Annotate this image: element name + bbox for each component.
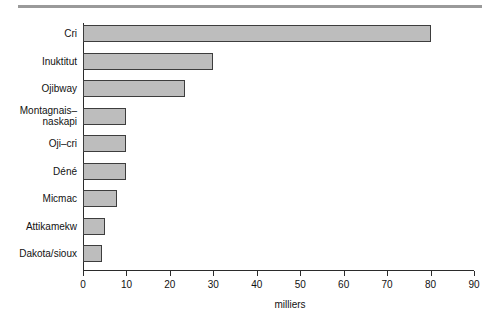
bar-chart: CriInuktitutOjibwayMontagnais– naskapiOj… bbox=[0, 0, 500, 324]
bar-rect bbox=[83, 135, 126, 152]
x-tick-label: 0 bbox=[68, 279, 98, 290]
x-tick-label: 80 bbox=[416, 279, 446, 290]
x-tick bbox=[387, 271, 388, 276]
category-label: Inuktitut bbox=[0, 56, 77, 67]
x-tick bbox=[213, 271, 214, 276]
bar-rect bbox=[83, 218, 105, 235]
x-tick bbox=[474, 271, 475, 276]
x-tick-label: 20 bbox=[155, 279, 185, 290]
x-tick-label: 10 bbox=[111, 279, 141, 290]
x-tick bbox=[344, 271, 345, 276]
x-axis-title-text: milliers bbox=[274, 299, 305, 310]
x-tick bbox=[83, 271, 84, 276]
x-tick-label: 60 bbox=[329, 279, 359, 290]
x-axis-line bbox=[83, 270, 474, 271]
x-tick bbox=[431, 271, 432, 276]
x-tick bbox=[300, 271, 301, 276]
category-label: Oji–cri bbox=[0, 138, 77, 149]
category-label: Dakota/sioux bbox=[0, 248, 77, 259]
category-label: Attikamekw bbox=[0, 221, 77, 232]
x-tick bbox=[257, 271, 258, 276]
x-tick bbox=[170, 271, 171, 276]
bar-rect bbox=[83, 163, 126, 180]
bar-rect bbox=[83, 80, 185, 97]
bar-rect bbox=[83, 190, 117, 207]
x-axis-title: milliers bbox=[0, 299, 500, 310]
category-label: Montagnais– naskapi bbox=[0, 105, 77, 127]
bar-rect bbox=[83, 25, 431, 42]
category-label: Ojibway bbox=[0, 83, 77, 94]
bar-rect bbox=[83, 245, 102, 262]
x-tick-label: 40 bbox=[242, 279, 272, 290]
x-tick-label: 90 bbox=[459, 279, 489, 290]
category-label: Cri bbox=[0, 28, 77, 39]
x-tick-label: 50 bbox=[285, 279, 315, 290]
x-tick-label: 70 bbox=[372, 279, 402, 290]
bar-rect bbox=[83, 53, 213, 70]
x-tick-label: 30 bbox=[198, 279, 228, 290]
category-label: Déné bbox=[0, 166, 77, 177]
x-tick bbox=[126, 271, 127, 276]
bar-rect bbox=[83, 108, 126, 125]
category-label: Micmac bbox=[0, 193, 77, 204]
